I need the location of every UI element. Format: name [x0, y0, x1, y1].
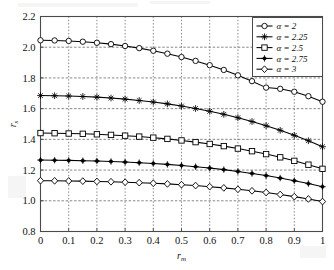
data-point-asterisk	[261, 33, 268, 40]
data-point-circle-open	[263, 85, 268, 90]
tick-label-x: 0.3	[119, 235, 132, 246]
data-point-square-open	[122, 133, 127, 138]
data-point-square-open	[263, 151, 268, 156]
data-point-circle-open	[108, 41, 113, 46]
data-point-circle-open	[193, 58, 198, 63]
data-point-circle-open	[122, 43, 127, 48]
legend-label: α = 3	[277, 64, 297, 74]
data-point-square-open	[179, 138, 184, 143]
tick-label-x: 0	[38, 235, 43, 246]
tick-label-x: 0.4	[147, 235, 161, 246]
data-point-circle-open	[94, 40, 99, 45]
data-point-circle-open	[221, 67, 226, 72]
data-point-circle-open	[262, 23, 267, 28]
tick-label-x: 0.5	[175, 235, 188, 246]
data-point-square-open	[94, 132, 99, 137]
data-point-square-open	[66, 131, 71, 136]
data-point-asterisk	[178, 103, 185, 110]
data-point-square-open	[306, 162, 311, 167]
data-point-circle-open	[38, 38, 43, 43]
data-point-circle-open	[249, 78, 254, 83]
data-point-square-open	[278, 155, 283, 160]
data-point-square-open	[108, 132, 113, 137]
tick-label-x: 0.6	[203, 235, 216, 246]
tick-label-y: 2.2	[22, 11, 35, 22]
data-point-square-open	[80, 131, 85, 136]
data-point-circle-open	[179, 54, 184, 59]
data-point-circle-open	[320, 99, 325, 104]
legend-label: α = 2.25	[277, 32, 309, 42]
data-point-square-open	[151, 135, 156, 140]
data-point-circle-open	[292, 89, 297, 94]
chart-figure: 00.10.20.30.40.50.60.70.80.910.81.01.21.…	[0, 0, 334, 270]
data-point-square-open	[221, 143, 226, 148]
data-point-circle-open	[66, 38, 71, 43]
legend: α = 2α = 2.25α = 2.5α = 2.75α = 3	[253, 18, 323, 77]
data-point-asterisk	[291, 132, 298, 139]
data-point-square-open	[249, 148, 254, 153]
tick-label-x: 0.7	[231, 235, 244, 246]
tick-label-x: 1	[320, 235, 325, 246]
data-point-square-open	[38, 130, 43, 135]
tick-label-y: 1.8	[22, 73, 35, 84]
data-point-square-open	[320, 166, 325, 171]
tick-label-y: 1.4	[22, 134, 36, 145]
data-point-circle-open	[137, 45, 142, 50]
data-point-circle-open	[151, 48, 156, 53]
line-chart: 00.10.20.30.40.50.60.70.80.910.81.01.21.…	[0, 0, 334, 270]
data-point-circle-open	[165, 51, 170, 56]
data-point-circle-open	[235, 73, 240, 78]
tick-label-x: 0.1	[62, 235, 75, 246]
data-point-asterisk	[263, 122, 270, 129]
data-point-square-open	[292, 158, 297, 163]
tick-label-x: 0.9	[288, 235, 301, 246]
data-point-square-open	[52, 131, 57, 136]
tick-label-x: 0.8	[260, 235, 273, 246]
data-point-square-open	[193, 139, 198, 144]
data-point-circle-open	[278, 86, 283, 91]
legend-label: α = 2	[277, 21, 297, 31]
data-point-asterisk	[305, 137, 312, 144]
tick-label-y: 1.6	[22, 103, 35, 114]
legend-label: α = 2.75	[277, 54, 309, 64]
data-point-square-open	[235, 146, 240, 151]
data-point-square-open	[137, 134, 142, 139]
data-point-square-open	[262, 45, 267, 50]
data-point-circle-open	[207, 62, 212, 67]
data-point-square-open	[207, 141, 212, 146]
tick-label-y: 1.2	[22, 165, 35, 176]
tick-label-y: 0.8	[22, 226, 35, 237]
data-point-circle-open	[306, 94, 311, 99]
tick-label-x: 0.2	[90, 235, 103, 246]
tick-label-y: 2.0	[22, 42, 35, 53]
data-point-circle-open	[52, 38, 57, 43]
data-point-asterisk	[277, 127, 284, 134]
data-point-square-open	[165, 136, 170, 141]
tick-label-y: 1.0	[22, 195, 35, 206]
data-point-circle-open	[80, 39, 85, 44]
legend-label: α = 2.5	[277, 43, 304, 53]
